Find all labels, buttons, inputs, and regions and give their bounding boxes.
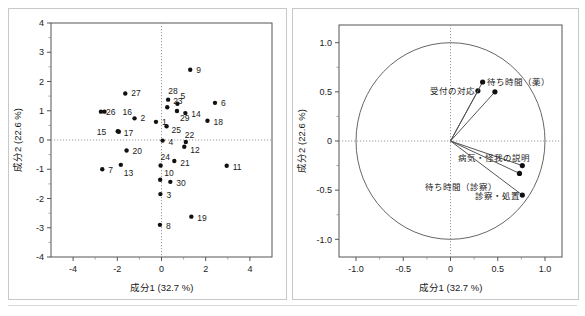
- point-label: 24: [161, 152, 171, 162]
- score-plot-svg: -4-2024-4-3-2-101234成分1 (32.7 %)成分2 (22.…: [9, 9, 284, 297]
- point-marker: [165, 105, 169, 109]
- score-point[interactable]: 27: [123, 88, 141, 98]
- point-marker: [154, 120, 158, 124]
- point-label: 7: [108, 165, 113, 175]
- score-point[interactable]: 7: [100, 165, 113, 175]
- point-marker: [123, 91, 127, 95]
- loading-vector[interactable]: 病気・怪我の説明: [451, 141, 531, 168]
- score-plot-panel: -4-2024-4-3-2-101234成分1 (32.7 %)成分2 (22.…: [8, 8, 287, 300]
- score-point[interactable]: 3: [158, 190, 171, 200]
- y-tick-label: 2: [39, 77, 44, 87]
- y-tick-label: 0: [327, 136, 332, 146]
- figure-canvas: -4-2024-4-3-2-101234成分1 (32.7 %)成分2 (22.…: [0, 0, 585, 316]
- point-marker: [100, 167, 104, 171]
- score-point[interactable]: 18: [205, 117, 223, 127]
- loading-marker: [520, 163, 525, 168]
- point-label: 6: [221, 98, 226, 108]
- y-axis-title: 成分2 (22.6 %): [296, 109, 307, 173]
- point-label: 19: [197, 213, 207, 223]
- loading-label: 受付の対応: [430, 86, 475, 96]
- point-marker: [213, 101, 217, 105]
- score-point[interactable]: 19: [189, 213, 207, 223]
- point-marker: [158, 178, 162, 182]
- score-point[interactable]: 8: [158, 221, 171, 231]
- point-label: 16: [122, 107, 132, 117]
- point-label: 18: [213, 117, 223, 127]
- point-label: 25: [172, 125, 182, 135]
- point-marker: [158, 163, 162, 167]
- x-axis-title: 成分1 (32.7 %): [130, 282, 194, 293]
- score-point[interactable]: 21: [172, 158, 190, 168]
- y-tick-label: -1: [36, 164, 44, 174]
- point-label: 30: [176, 178, 186, 188]
- x-tick-label: 0: [159, 264, 164, 274]
- score-point[interactable]: 30: [168, 178, 186, 188]
- score-point[interactable]: 20: [124, 146, 142, 156]
- score-point[interactable]: 15: [97, 127, 120, 137]
- y-tick-label: -4: [36, 252, 44, 262]
- point-marker: [160, 138, 164, 142]
- score-point[interactable]: 22: [184, 130, 195, 144]
- score-point[interactable]: 12: [182, 145, 200, 155]
- point-label: 21: [180, 158, 190, 168]
- score-point[interactable]: 4: [160, 137, 173, 147]
- score-point[interactable]: 9: [188, 65, 201, 75]
- point-label: 27: [131, 88, 141, 98]
- loading-marker: [480, 79, 485, 84]
- loading-plot-svg: -1.0-0.500.51.0-1.0-0.500.51.0成分1 (32.7 …: [293, 9, 576, 297]
- point-marker: [168, 180, 172, 184]
- point-label: 28: [168, 86, 178, 96]
- x-axis-title: 成分1 (32.7 %): [419, 282, 483, 293]
- point-marker: [124, 148, 128, 152]
- loading-marker: [520, 192, 525, 197]
- score-point[interactable]: 13: [119, 163, 134, 178]
- x-tick-label: 0: [448, 264, 453, 274]
- point-label: 2: [141, 113, 146, 123]
- score-point[interactable]: 26: [99, 107, 116, 117]
- point-label: 17: [124, 128, 134, 138]
- x-tick-label: 1.0: [539, 264, 552, 274]
- loading-marker: [492, 89, 497, 94]
- point-marker: [189, 214, 193, 218]
- loading-plot-panel: -1.0-0.500.51.0-1.0-0.500.51.0成分1 (32.7 …: [292, 8, 579, 300]
- y-tick-label: -3: [36, 223, 44, 233]
- point-marker: [175, 109, 179, 113]
- loading-marker: [517, 171, 522, 176]
- point-label: 14: [191, 109, 201, 119]
- score-point[interactable]: 25: [164, 124, 181, 135]
- x-tick-label: -2: [113, 264, 121, 274]
- x-tick-label: -1.0: [348, 264, 364, 274]
- score-point[interactable]: 10: [158, 168, 174, 182]
- point-marker: [166, 97, 170, 101]
- point-marker: [119, 163, 123, 167]
- figure-bottom-rule: [8, 305, 577, 306]
- score-point[interactable]: 11: [224, 162, 241, 172]
- point-marker: [132, 116, 136, 120]
- point-label: 12: [190, 145, 200, 155]
- score-point[interactable]: 2: [132, 113, 145, 123]
- score-point[interactable]: 23: [166, 96, 183, 106]
- score-point[interactable]: 17: [117, 128, 134, 138]
- point-label: 15: [97, 127, 107, 137]
- y-tick-label: -2: [36, 194, 44, 204]
- point-marker: [172, 159, 176, 163]
- point-marker: [158, 223, 162, 227]
- y-tick-label: 0.5: [319, 87, 332, 97]
- x-tick-label: -0.5: [395, 264, 411, 274]
- point-label: 26: [106, 107, 116, 117]
- point-label: 3: [166, 190, 171, 200]
- x-tick-label: 4: [247, 264, 252, 274]
- x-tick-label: 2: [203, 264, 208, 274]
- point-marker: [158, 192, 162, 196]
- point-label: 4: [169, 137, 174, 147]
- y-tick-label: 1.0: [319, 38, 332, 48]
- score-point[interactable]: 29: [175, 109, 190, 123]
- x-tick-label: 0.5: [491, 264, 504, 274]
- point-label: 22: [185, 130, 195, 140]
- score-point[interactable]: 24: [158, 152, 170, 167]
- point-label: 13: [124, 168, 134, 178]
- point-marker: [164, 124, 168, 128]
- y-tick-label: 3: [39, 47, 44, 57]
- point-label: 20: [133, 146, 143, 156]
- score-point[interactable]: 6: [213, 98, 226, 108]
